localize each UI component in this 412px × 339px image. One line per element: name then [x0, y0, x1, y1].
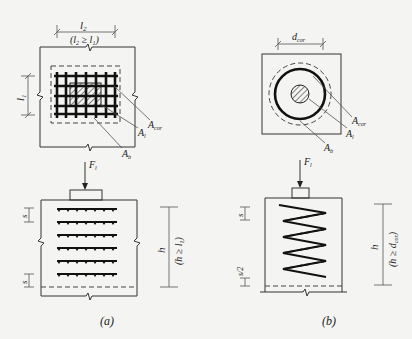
spiral-reinforcement	[279, 205, 326, 277]
leaders-b: Acor Al Ab	[300, 76, 367, 154]
load-arrow-b: Fl	[297, 156, 312, 188]
bearing-plate-b	[292, 188, 309, 198]
spacing-dim-b-bottom: s/2	[236, 267, 250, 286]
spacing-dim-a-top: s	[19, 208, 34, 222]
svg-text:Al: Al	[345, 128, 354, 140]
load-arrow-a: Fl	[82, 159, 97, 190]
rebar-mesh	[54, 72, 118, 118]
svg-text:Ab: Ab	[121, 148, 131, 160]
svg-text:(h ≥ dcor): (h ≥ dcor)	[387, 231, 399, 267]
dimension-l2: l2 (l2 ≥ l1)	[54, 19, 118, 46]
svg-text:h: h	[368, 244, 380, 250]
block-outline-a-elev	[38, 200, 140, 300]
svg-text:Acor: Acor	[351, 115, 367, 127]
svg-text:s: s	[19, 214, 29, 218]
bearing-plate-a	[70, 190, 102, 200]
caption-b: (b)	[322, 314, 336, 328]
svg-text:Fl: Fl	[303, 156, 312, 168]
panel-b-plan-view: dcor Acor Al Ab	[262, 31, 367, 154]
svg-text:(l2 ≥ l1): (l2 ≥ l1)	[70, 34, 99, 46]
svg-text:s/2: s/2	[236, 267, 245, 276]
svg-text:s: s	[19, 280, 29, 284]
spacing-dim-b-top: s	[235, 207, 250, 220]
svg-text:Ab: Ab	[323, 142, 333, 154]
spacing-dim-a-bottom: s	[19, 274, 34, 287]
local-compression-reinforcement-diagram: l2 (l2 ≥ l1)	[0, 0, 412, 339]
svg-text:Fl: Fl	[88, 159, 97, 171]
area-al-hatched-circle	[291, 85, 309, 103]
panel-a-elevation: Fl	[19, 159, 185, 300]
height-dim-a: h (h ≥ l1)	[155, 207, 185, 287]
svg-text:Acor: Acor	[147, 119, 163, 131]
panel-b-elevation: Fl s s/2	[235, 156, 399, 296]
dimension-l1: l1	[14, 73, 35, 118]
dimension-dcor: dcor	[275, 31, 326, 50]
svg-text:Al: Al	[137, 127, 146, 139]
block-outline-b-elev	[260, 198, 347, 296]
svg-text:l2: l2	[80, 19, 87, 33]
height-dim-b: h (h ≥ dcor)	[368, 204, 399, 285]
svg-text:s: s	[235, 213, 245, 217]
svg-text:l1: l1	[14, 94, 28, 101]
svg-text:(h ≥ l1): (h ≥ l1)	[173, 236, 185, 265]
mesh-bar-dots	[57, 209, 115, 277]
svg-text:dcor: dcor	[292, 31, 306, 43]
mesh-layers	[57, 209, 117, 274]
diagram-canvas: l2 (l2 ≥ l1)	[0, 0, 412, 339]
panel-a-plan-view: l2 (l2 ≥ l1)	[14, 19, 163, 160]
caption-a: (a)	[100, 314, 114, 328]
svg-text:h: h	[155, 247, 167, 253]
